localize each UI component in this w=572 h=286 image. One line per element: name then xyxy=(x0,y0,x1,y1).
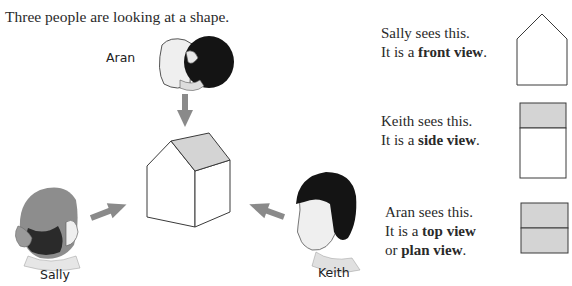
caption-text: It is a xyxy=(381,132,418,148)
caption-line: Sally sees this. xyxy=(381,24,487,43)
label-keith: Keith xyxy=(318,265,350,280)
house-shape xyxy=(147,133,230,227)
arrow-left-icon xyxy=(246,197,286,225)
sally-head-icon xyxy=(15,188,80,271)
caption-line: or plan view. xyxy=(385,241,476,260)
caption-text: . xyxy=(463,242,467,258)
caption-line: It is a top view xyxy=(385,222,476,241)
caption-text: . xyxy=(483,44,487,60)
caption-term: plan view xyxy=(401,242,462,258)
caption-text: . xyxy=(476,132,480,148)
top-view-caption: Aran sees this. It is a top view or plan… xyxy=(385,203,476,260)
label-sally: Sally xyxy=(40,267,70,282)
caption-term: top view xyxy=(422,223,476,239)
caption-text: or xyxy=(385,242,401,258)
caption-term: front view xyxy=(418,44,483,60)
top-view-shape xyxy=(521,203,568,253)
arrow-right-icon xyxy=(88,197,129,226)
caption-line: Aran sees this. xyxy=(385,203,476,222)
caption-term: side view xyxy=(418,132,476,148)
side-view-caption: Keith sees this. It is a side view. xyxy=(381,112,480,150)
caption-text: It is a xyxy=(385,223,422,239)
aran-head-icon xyxy=(159,36,234,91)
caption-line: It is a front view. xyxy=(381,43,487,62)
keith-head-icon xyxy=(296,172,360,272)
front-view-shape xyxy=(517,14,567,85)
caption-text: It is a xyxy=(381,44,418,60)
label-aran: Aran xyxy=(106,50,135,65)
side-view-shape xyxy=(520,103,566,178)
caption-line: It is a side view. xyxy=(381,131,480,150)
caption-line: Keith sees this. xyxy=(381,112,480,131)
arrow-down-icon xyxy=(177,94,193,127)
front-view-caption: Sally sees this. It is a front view. xyxy=(381,24,487,62)
